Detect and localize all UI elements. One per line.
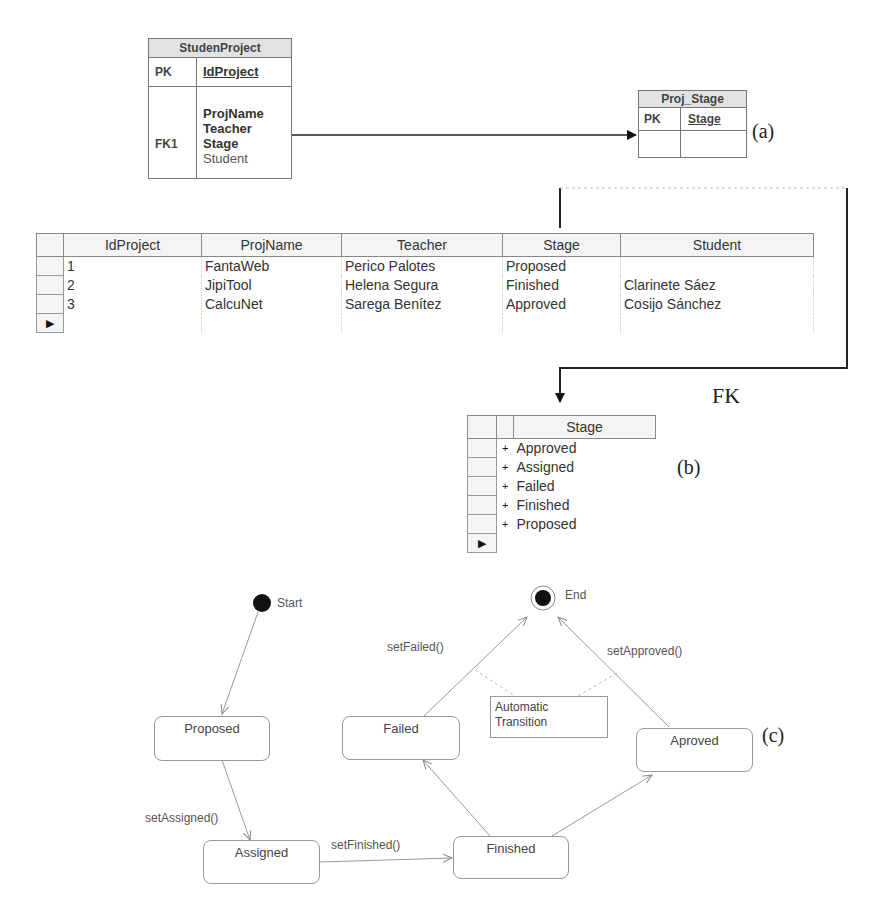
state-failed[interactable]: Failed <box>342 716 460 760</box>
cell-teacher[interactable]: Helena Segura <box>342 276 503 295</box>
panel-label-a: (a) <box>752 120 774 143</box>
cell-teacher[interactable]: Perico Palotes <box>342 257 503 276</box>
new-row[interactable]: ▶ <box>37 314 814 333</box>
row-selector[interactable] <box>468 477 497 496</box>
row-selector[interactable] <box>468 496 497 515</box>
pk-label: PK <box>155 65 172 79</box>
row-selector[interactable] <box>468 458 497 477</box>
expander-header <box>497 416 514 439</box>
transition-set-failed: setFailed() <box>387 640 444 654</box>
expand-icon[interactable]: + <box>497 496 514 515</box>
state-proposed[interactable]: Proposed <box>154 716 270 761</box>
cell-stage[interactable]: Failed <box>514 477 656 496</box>
cell-idproject[interactable]: 3 <box>64 295 202 314</box>
proj-stage-entity: Proj_Stage PK Stage <box>638 90 747 158</box>
cell-stage[interactable]: Proposed <box>514 515 656 534</box>
cell-projname[interactable]: CalcuNet <box>202 295 342 314</box>
field-student: Student <box>203 151 264 166</box>
column-header-student[interactable]: Student <box>621 234 814 257</box>
row-selector[interactable] <box>37 257 64 276</box>
project-table: IdProject ProjName Teacher Stage Student… <box>36 233 814 333</box>
column-header-projname[interactable]: ProjName <box>202 234 342 257</box>
field-projname: ProjName <box>203 106 264 121</box>
entity-title: StudenProject <box>149 39 291 58</box>
row-selector-header <box>37 234 64 257</box>
expand-icon[interactable]: + <box>497 515 514 534</box>
stage-table: Stage + Approved + Assigned + Failed + F… <box>467 415 656 553</box>
cell-student[interactable]: Cosijo Sánchez <box>621 295 814 314</box>
new-row-marker-icon[interactable]: ▶ <box>468 534 497 553</box>
row-selector[interactable] <box>37 295 64 314</box>
column-header-idproject[interactable]: IdProject <box>64 234 202 257</box>
cell-stage[interactable]: Approved <box>514 439 656 458</box>
panel-label-b: (b) <box>677 456 700 479</box>
start-label: Start <box>277 596 302 610</box>
cell-stage[interactable]: Proposed <box>503 257 621 276</box>
expand-icon[interactable]: + <box>497 439 514 458</box>
row-selector-header <box>468 416 497 439</box>
cell-projname[interactable]: FantaWeb <box>202 257 342 276</box>
cell-student[interactable] <box>621 257 814 276</box>
end-label: End <box>565 588 586 602</box>
transition-set-assigned: setAssigned() <box>145 811 218 825</box>
state-approved[interactable]: Aproved <box>636 728 753 772</box>
cell-projname[interactable]: JipiTool <box>202 276 342 295</box>
fk-label: FK1 <box>155 137 178 151</box>
automatic-transition-note: Automatic Transition <box>490 696 608 738</box>
row-selector[interactable] <box>37 276 64 295</box>
state-finished[interactable]: Finished <box>453 836 569 879</box>
pk-label: PK <box>644 112 661 126</box>
table-row[interactable]: 1 FantaWeb Perico Palotes Proposed <box>37 257 814 276</box>
note-line-2: Transition <box>495 715 603 730</box>
table-row[interactable]: + Finished <box>468 496 656 515</box>
table-row[interactable]: + Assigned <box>468 458 656 477</box>
table-row[interactable]: + Failed <box>468 477 656 496</box>
cell-teacher[interactable]: Sarega Benítez <box>342 295 503 314</box>
panel-label-c: (c) <box>762 724 784 747</box>
pk-field: IdProject <box>203 64 259 79</box>
column-header-stage[interactable]: Stage <box>503 234 621 257</box>
cell-stage[interactable]: Finished <box>503 276 621 295</box>
connector-layer <box>0 0 881 919</box>
row-selector[interactable] <box>468 515 497 534</box>
cell-student[interactable]: Clarinete Sáez <box>621 276 814 295</box>
state-assigned[interactable]: Assigned <box>203 840 320 884</box>
column-header-teacher[interactable]: Teacher <box>342 234 503 257</box>
expand-icon[interactable]: + <box>497 458 514 477</box>
cell-stage[interactable]: Assigned <box>514 458 656 477</box>
start-node-icon <box>253 594 271 612</box>
cell-stage[interactable]: Finished <box>514 496 656 515</box>
cell-idproject[interactable]: 2 <box>64 276 202 295</box>
row-selector[interactable] <box>468 439 497 458</box>
note-line-1: Automatic <box>495 700 603 715</box>
transition-set-approved: setApproved() <box>607 644 682 658</box>
entity-title: Proj_Stage <box>639 91 746 108</box>
cell-idproject[interactable]: 1 <box>64 257 202 276</box>
transition-set-finished: setFinished() <box>331 838 400 852</box>
new-row-marker-icon[interactable]: ▶ <box>37 314 64 333</box>
field-stage: Stage <box>203 136 264 151</box>
student-project-entity: StudenProject PK IdProject FK1 ProjName … <box>148 38 292 179</box>
expand-icon[interactable]: + <box>497 477 514 496</box>
table-row[interactable]: + Approved <box>468 439 656 458</box>
new-row[interactable]: ▶ <box>468 534 656 553</box>
cell-stage[interactable]: Approved <box>503 295 621 314</box>
table-row[interactable]: 2 JipiTool Helena Segura Finished Clarin… <box>37 276 814 295</box>
pk-field: Stage <box>688 112 721 126</box>
table-row[interactable]: 3 CalcuNet Sarega Benítez Approved Cosij… <box>37 295 814 314</box>
column-header-stage[interactable]: Stage <box>514 416 656 439</box>
fk-label: FK <box>712 383 740 409</box>
field-teacher: Teacher <box>203 121 264 136</box>
table-row[interactable]: + Proposed <box>468 515 656 534</box>
